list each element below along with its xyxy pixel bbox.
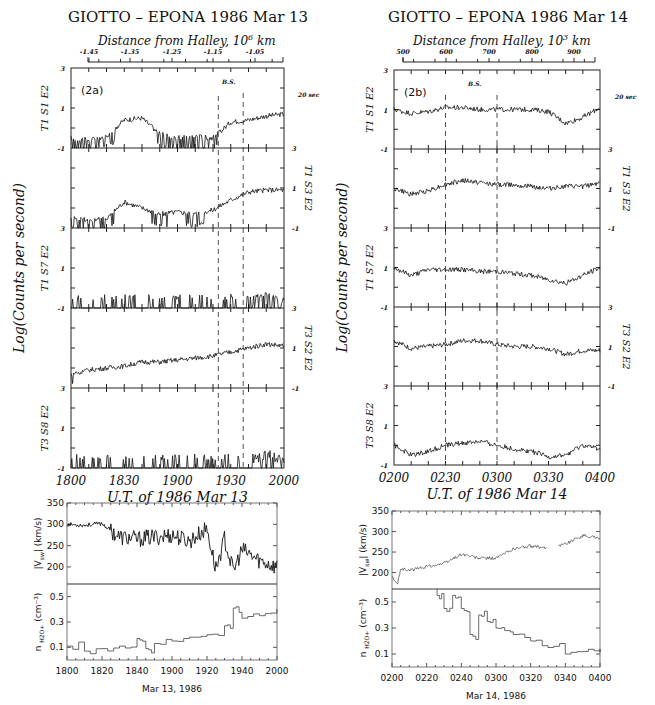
svg-text:0.5: 0.5 <box>50 592 64 602</box>
svg-text:-1.25: -1.25 <box>163 48 182 56</box>
svg-text:3: 3 <box>60 385 65 393</box>
distance-axis: -1.45-1.35-1.25-1.15-1.05 <box>80 48 283 62</box>
svg-text:-1: -1 <box>381 462 388 470</box>
bottom-x-tick-label: 0240 <box>450 673 473 683</box>
svg-text:1: 1 <box>608 186 613 194</box>
svg-text:1: 1 <box>383 423 388 431</box>
bow-shock-label: B.S. <box>221 78 235 85</box>
svg-text:0.1: 0.1 <box>50 642 64 652</box>
svg-text:900: 900 <box>567 48 581 56</box>
svg-text:3: 3 <box>383 67 388 75</box>
figure-2a: GIOTTO – EPONA 1986 Mar 13Distance from … <box>0 0 330 705</box>
bottom-x-tick-label: 0340 <box>554 673 577 683</box>
count-rate-trace <box>71 343 284 384</box>
svg-text:1: 1 <box>60 265 65 273</box>
figure-title: GIOTTO – EPONA 1986 Mar 14 <box>388 8 628 26</box>
x-tick-label: 1800 <box>56 474 87 488</box>
svg-text:1: 1 <box>608 344 613 352</box>
x-tick-label: 0330 <box>533 471 564 485</box>
svg-text:500: 500 <box>396 48 410 56</box>
h2o-density-trace <box>437 589 600 654</box>
svg-text:-1: -1 <box>608 383 615 391</box>
series-label: T1 S3 E2 <box>303 165 314 211</box>
bottom-x-tick-label: 1820 <box>91 666 114 676</box>
svg-text:1: 1 <box>383 107 388 115</box>
count-rate-panels: 31-131-131-131-131-1 <box>58 65 299 473</box>
bottom-x-tick-label: 1800 <box>56 666 79 676</box>
svg-text:600: 600 <box>439 48 453 56</box>
series-label: T3 S2 E2 <box>303 325 314 371</box>
svg-text:-1: -1 <box>381 146 388 154</box>
svg-text:3: 3 <box>608 146 613 154</box>
bottom-x-tick-label: 1900 <box>161 666 184 676</box>
series-label: T3 S8 E2 <box>364 402 375 448</box>
bottom-x-tick-label: 0200 <box>381 673 404 683</box>
svg-text:1: 1 <box>292 185 297 193</box>
density-axis-label: n H2O+ (cm⁻³) <box>358 599 370 658</box>
count-rate-panels: 31-131-131-131-131-1 <box>381 67 615 470</box>
x-tick-label: 1930 <box>215 474 246 488</box>
svg-text:-1.35: -1.35 <box>121 48 140 56</box>
x-tick-label: 0200 <box>379 471 410 485</box>
svg-text:300: 300 <box>372 527 389 537</box>
svg-text:3: 3 <box>383 225 388 233</box>
time-resolution-label: 20 sec <box>614 93 637 100</box>
svg-text:300: 300 <box>47 519 64 529</box>
series-label: T1 S1 E2 <box>39 85 50 131</box>
svg-text:350: 350 <box>372 506 389 516</box>
solar-wind-speed-trace <box>67 522 277 573</box>
svg-text:3: 3 <box>292 305 297 313</box>
svg-text:3: 3 <box>292 145 297 153</box>
bottom-x-tick-label: 0320 <box>519 673 542 683</box>
svg-text:-1.45: -1.45 <box>80 48 99 56</box>
bottom-x-tick-label: 1920 <box>196 666 219 676</box>
svg-text:800: 800 <box>525 48 539 56</box>
x-tick-label: 2000 <box>268 474 300 488</box>
svg-text:-1: -1 <box>292 385 299 393</box>
series-label: T1 S1 E2 <box>364 86 375 132</box>
svg-text:3: 3 <box>60 65 65 73</box>
y-axis-label: Log(Counts per second) <box>334 182 350 353</box>
solar-wind-speed-trace <box>558 534 600 546</box>
svg-text:0.5: 0.5 <box>375 597 389 607</box>
series-label: T1 S7 E2 <box>39 245 50 291</box>
top-axis-label: Distance from Halley, 106 km <box>97 33 276 48</box>
bottom-x-tick-label: 0300 <box>485 673 508 683</box>
svg-text:1: 1 <box>60 105 65 113</box>
svg-text:-1.05: -1.05 <box>246 48 265 56</box>
svg-text:3: 3 <box>608 304 613 312</box>
speed-axis-label: |Vsw| (km/s) <box>33 518 45 570</box>
speed-axis-label: |Vsw| (km/s) <box>358 524 370 576</box>
series-label: T1 S7 E2 <box>364 244 375 290</box>
time-resolution-label: 20 sec <box>297 91 320 98</box>
svg-text:1: 1 <box>383 265 388 273</box>
x-axis-label: U.T. of 1986 Mar 14 <box>427 486 568 502</box>
h2o-density-trace <box>67 607 277 654</box>
bottom-x-tick-label: 0400 <box>589 673 612 683</box>
bottom-x-tick-label: 1840 <box>126 666 149 676</box>
plasma-panels: 2002503003500.10.30.5 <box>47 498 277 660</box>
series-label: T1 S3 E2 <box>621 165 632 211</box>
top-axis-label: Distance from Halley, 103 km <box>412 33 591 48</box>
svg-text:0.3: 0.3 <box>375 623 389 633</box>
svg-text:1: 1 <box>60 425 65 433</box>
bottom-x-tick-label: 2000 <box>266 666 289 676</box>
svg-text:-1: -1 <box>58 305 65 313</box>
panel-tag: (2b) <box>404 86 427 99</box>
x-tick-label: 1830 <box>109 474 140 488</box>
svg-text:250: 250 <box>47 541 64 551</box>
svg-text:3: 3 <box>60 225 65 233</box>
svg-text:700: 700 <box>482 48 496 56</box>
density-axis-label: n H2O+ (cm⁻³) <box>33 593 45 652</box>
distance-axis: 500600700800900 <box>396 48 595 62</box>
bottom-x-axis-label: Mar 14, 1986 <box>466 691 526 701</box>
svg-text:250: 250 <box>372 547 389 557</box>
panel-tag: (2a) <box>81 84 103 97</box>
plasma-panels: 2002503003500.10.30.5 <box>372 506 600 667</box>
bottom-x-tick-label: 1940 <box>231 666 254 676</box>
y-axis-label: Log(Counts per second) <box>11 183 27 354</box>
x-tick-label: 0400 <box>585 471 616 485</box>
svg-text:0.3: 0.3 <box>50 617 64 627</box>
solar-wind-speed-trace <box>392 545 546 584</box>
figure-2b: GIOTTO – EPONA 1986 Mar 14Distance from … <box>330 0 655 705</box>
